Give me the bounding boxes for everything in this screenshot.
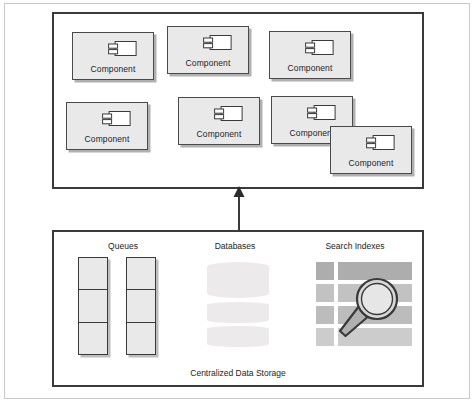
queue-cell [127,290,155,322]
component-label: Component [73,64,153,74]
uml-component-icon [307,104,337,126]
architecture-diagram: Component Component Component [0,0,476,404]
queue-cell [79,258,107,290]
queue-cell [127,323,155,354]
uml-component-icon [108,40,138,62]
component-box[interactable]: Component [330,126,412,174]
queue-stack-icon [78,257,108,355]
component-box[interactable]: Component [178,97,260,145]
index-grid-cell [316,306,334,324]
uml-component-icon [102,110,132,132]
search-indexes-graphic [316,262,412,354]
queue-cell [127,258,155,290]
upward-arrow-icon [232,186,246,234]
component-label: Component [168,58,248,68]
component-label: Component [67,134,147,144]
index-grid-cell [316,262,334,280]
storage-caption: Centralized Data Storage [52,368,424,378]
uml-component-icon [305,39,335,61]
queue-cell [79,323,107,354]
index-grid-cell [316,328,334,346]
uml-component-icon [366,134,396,156]
database-cylinder-icon [207,262,269,354]
component-label: Component [179,129,259,139]
queue-stack-icon [126,257,156,355]
component-box[interactable]: Component [66,102,148,150]
components-container: Component Component Component [52,12,424,189]
search-indexes-label: Search Indexes [300,241,410,251]
index-grid-cell [316,284,334,302]
component-box[interactable]: Component [167,26,249,74]
magnifier-icon [334,274,406,348]
component-box[interactable]: Component [269,31,351,79]
queue-cell [79,290,107,322]
component-label: Component [331,158,411,168]
databases-label: Databases [190,241,280,251]
component-label: Component [270,63,350,73]
uml-component-icon [214,105,244,127]
component-box[interactable]: Component [72,32,154,80]
database-cylinder [207,262,269,298]
uml-component-icon [203,34,233,56]
database-cylinder [207,302,269,323]
database-cylinder [207,326,269,347]
queues-label: Queues [78,241,168,251]
